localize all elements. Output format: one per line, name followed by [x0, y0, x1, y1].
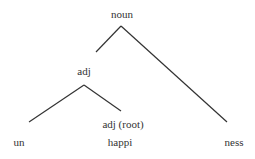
edge-noun-ness [121, 26, 227, 122]
edge-noun-adj [96, 26, 121, 52]
edge-adj-root [84, 85, 121, 111]
node-noun: noun [111, 9, 133, 20]
node-ness: ness [225, 137, 244, 148]
node-un: un [14, 137, 25, 148]
node-happi: happi [108, 137, 132, 148]
node-adj-root: adj (root) [102, 119, 143, 130]
morphology-tree-diagram: noun adj adj (root) un happi ness [0, 0, 255, 159]
node-adj: adj [77, 66, 90, 77]
edge-adj-un [29, 85, 84, 122]
